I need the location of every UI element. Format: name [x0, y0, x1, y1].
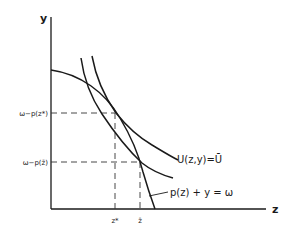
x-axis-label: z: [272, 203, 278, 216]
indifference-curve-low: [81, 58, 173, 178]
y-tick-y-bar: ω−p(z̄): [23, 159, 49, 167]
utility-curve-label: U(z,y)=Ū: [177, 153, 222, 165]
budget-curve-label: p(z) + y = ω: [170, 187, 233, 198]
y-axis-label: y: [40, 12, 47, 25]
diagram-svg: y z ω−p(z*) ω−p(z̄) z* z̄ U(z,y)=Ū p(z) …: [0, 0, 294, 232]
y-tick-y-star: ω−p(z*): [19, 110, 48, 118]
diagram-canvas: y z ω−p(z*) ω−p(z̄) z* z̄ U(z,y)=Ū p(z) …: [0, 0, 294, 232]
indifference-curve-high: [92, 56, 178, 160]
budget-leader-line: [149, 192, 168, 196]
x-tick-z-star: z*: [111, 217, 119, 225]
x-tick-z-bar: z̄: [138, 217, 142, 225]
